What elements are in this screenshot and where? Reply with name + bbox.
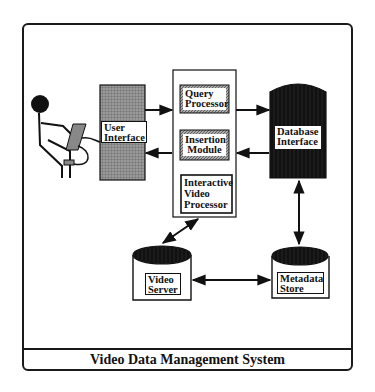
user-interface-label: User Interface: [101, 121, 147, 143]
query-processor-label: Query Processor: [183, 88, 226, 110]
arrow-ivp-videoserver: [163, 219, 198, 243]
label-line: Video: [184, 188, 229, 199]
label-line: Interface: [104, 133, 144, 143]
insertion-module-label: Insertion Module: [183, 134, 226, 156]
label-line: Interactive: [184, 177, 229, 188]
metadata-store-label: Metadata Store: [277, 272, 324, 294]
label-line: Processor: [185, 99, 224, 109]
user-figure-icon: [31, 95, 101, 178]
video-server-label: Video Server: [145, 273, 181, 295]
diagram-caption: Video Data Management System: [22, 350, 353, 370]
label-line: Module: [185, 145, 224, 155]
label-line: Processor: [184, 199, 229, 210]
label-line: Server: [148, 285, 178, 295]
label-line: Interface: [277, 137, 319, 147]
label-line: Store: [280, 284, 321, 294]
database-interface-label: Database Interface: [275, 126, 321, 149]
interactive-video-processor-label: Interactive Video Processor: [183, 177, 230, 211]
